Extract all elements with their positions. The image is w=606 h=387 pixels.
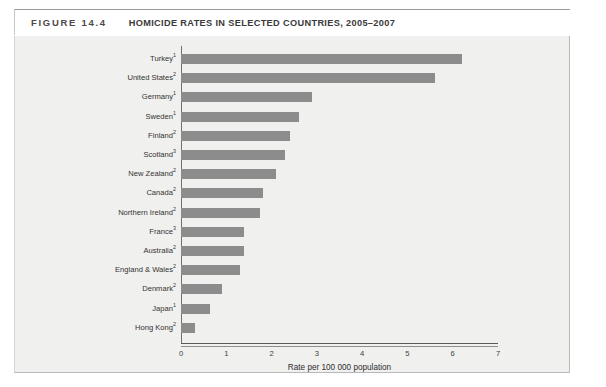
footnote-marker: 2 [173,264,176,270]
bar-category-label: Japan1 [15,300,176,318]
footnote-marker: 2 [173,244,176,250]
bar [181,246,244,256]
bar-row: Hong Kong2 [15,319,571,337]
figure-title: HOMICIDE RATES IN SELECTED COUNTRIES, 20… [129,18,395,28]
footnote-marker: 2 [173,283,176,289]
bar [181,284,222,294]
bar-row: United States2 [15,69,571,87]
bar [181,304,210,314]
bar-category-label: Canada2 [15,184,176,202]
bar [181,227,244,237]
bar-row: Japan1 [15,300,571,318]
bar-row: Turkey1 [15,50,571,68]
figure-header: FIGURE 14.4 HOMICIDE RATES IN SELECTED C… [14,9,570,35]
footnote-marker: 1 [173,52,176,58]
bar-category-label: Turkey1 [15,50,176,68]
footnote-marker: 2 [173,168,176,174]
x-axis-title: Rate per 100 000 population [181,363,498,372]
bar [181,150,285,160]
footnote-marker: 1 [173,302,176,308]
x-tick-label: 3 [315,349,319,358]
bar-row: Finland2 [15,127,571,145]
bar-category-label: Sweden1 [15,108,176,126]
x-tick-label: 6 [451,349,455,358]
bar [181,208,260,218]
bar-row: Sweden1 [15,108,571,126]
bar-row: Germany1 [15,88,571,106]
bar-category-label: Denmark2 [15,280,176,298]
bar-category-label: New Zealand2 [15,165,176,183]
chart-panel: Turkey1United States2Germany1Sweden1Finl… [14,36,570,373]
bar-row: Denmark2 [15,280,571,298]
bar [181,265,240,275]
x-tick-label: 4 [360,349,364,358]
bar-row: Canada2 [15,184,571,202]
bar [181,92,312,102]
footnote-marker: 1 [173,110,176,116]
bar [181,73,435,83]
bar [181,323,195,333]
bar-row: Australia2 [15,242,571,260]
x-tick-label: 1 [224,349,228,358]
bar-category-label: Finland2 [15,127,176,145]
footnote-marker: 3 [173,225,176,231]
x-axis-line-outer [181,343,498,344]
bar-category-label: Hong Kong2 [15,319,176,337]
bar [181,188,263,198]
bar-category-label: United States2 [15,69,176,87]
bar-row: England & Wales2 [15,261,571,279]
footnote-marker: 3 [173,148,176,154]
bar-row: Scotland3 [15,146,571,164]
figure-number: FIGURE 14.4 [31,17,107,28]
x-tick-label: 7 [496,349,500,358]
bar-row: New Zealand2 [15,165,571,183]
bar [181,112,299,122]
bar [181,54,462,64]
footnote-marker: 2 [173,206,176,212]
bar [181,169,276,179]
footnote-marker: 2 [173,187,176,193]
bar-category-label: France3 [15,223,176,241]
bar-category-label: Northern Ireland2 [15,204,176,222]
footnote-marker: 2 [173,72,176,78]
x-tick-label: 0 [179,349,183,358]
footnote-marker: 2 [173,321,176,327]
x-tick-label: 2 [269,349,273,358]
bar-row: France3 [15,223,571,241]
footnote-marker: 1 [173,91,176,97]
bar [181,131,290,141]
bar-row: Northern Ireland2 [15,204,571,222]
bar-category-label: Germany1 [15,88,176,106]
footnote-marker: 2 [173,129,176,135]
x-axis-line-inner [181,346,498,347]
bar-category-label: Australia2 [15,242,176,260]
bar-category-label: England & Wales2 [15,261,176,279]
plot-area: Turkey1United States2Germany1Sweden1Finl… [15,36,571,373]
x-tick-label: 5 [405,349,409,358]
bar-category-label: Scotland3 [15,146,176,164]
